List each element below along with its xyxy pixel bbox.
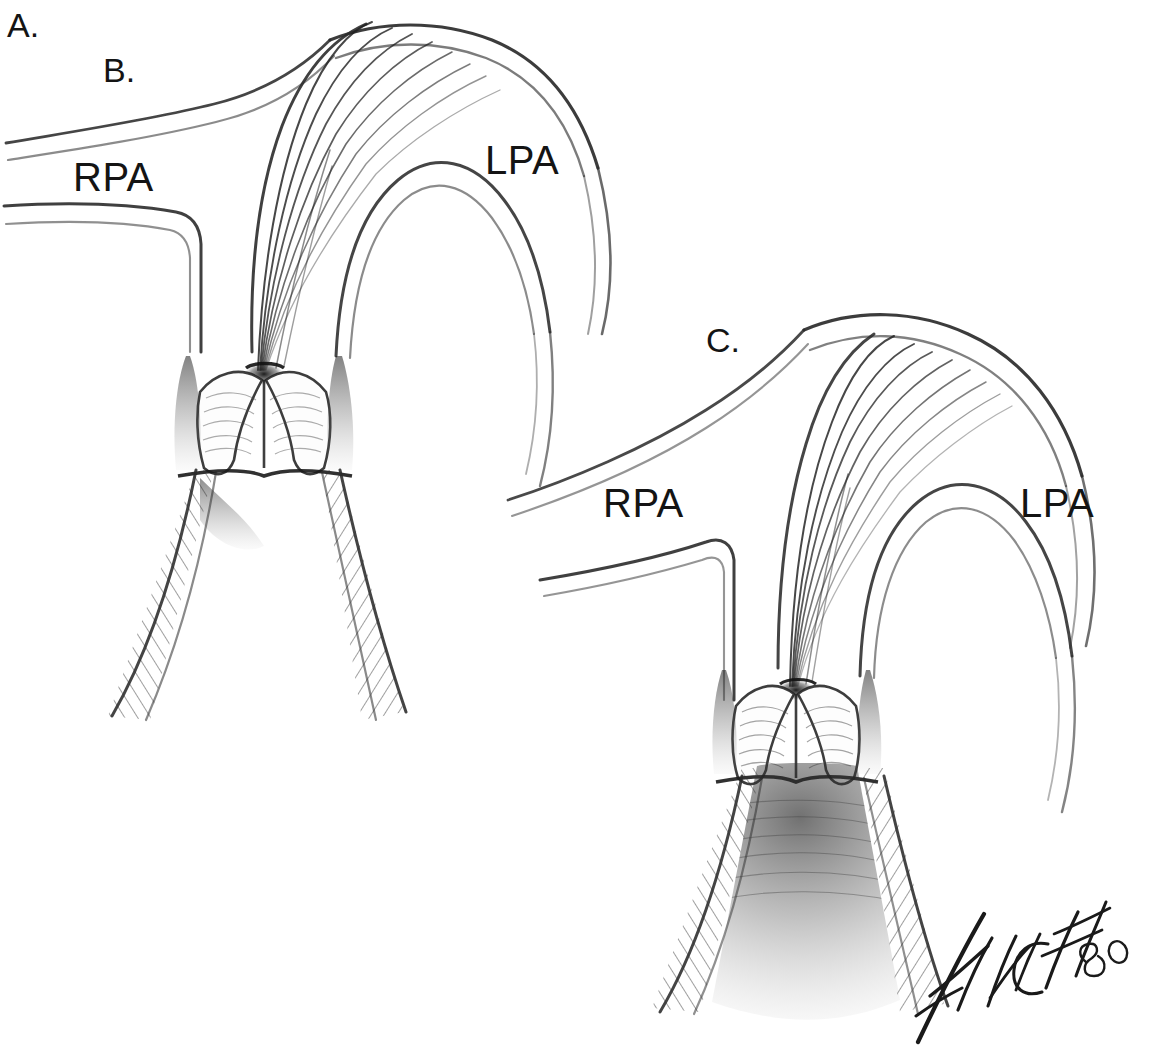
panel-b-lpa-label: LPA bbox=[485, 140, 559, 180]
panel-letter-b: B. bbox=[103, 53, 135, 87]
figure-root: A. B. RPA LPA C. RPA LPA bbox=[0, 0, 1149, 1058]
panel-c-lpa-label: LPA bbox=[1020, 483, 1094, 523]
panel-c-rpa-label: RPA bbox=[603, 483, 684, 523]
pulmonary-valve-illustration bbox=[0, 0, 1149, 1058]
panel-b-rpa-label: RPA bbox=[73, 157, 154, 197]
panel-letter-c: C. bbox=[706, 323, 740, 357]
canvas-background bbox=[0, 0, 1149, 1058]
figure-letter-a: A. bbox=[7, 8, 39, 42]
panel-b-valve-cusps bbox=[197, 372, 330, 474]
